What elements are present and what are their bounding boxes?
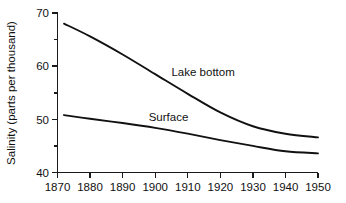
y-axis-title: Salinity (parts per thousand) [5,21,17,165]
y-tick-label-50: 50 [36,114,49,126]
y-axis-minor-ticks [54,40,58,147]
x-tick-label-1880: 1880 [77,181,103,193]
x-tick-label-1890: 1890 [110,181,136,193]
x-tick-label-1920: 1920 [208,181,234,193]
x-tick-label-1930: 1930 [240,181,266,193]
x-axis-ticks [58,173,319,179]
x-tick-label-1910: 1910 [175,181,201,193]
x-tick-label-1870: 1870 [45,181,71,193]
y-tick-label-70: 70 [36,7,49,19]
y-tick-label-60: 60 [36,60,49,72]
x-tick-label-1900: 1900 [142,181,168,193]
series-label-lake-bottom: Lake bottom [171,66,234,78]
series-label-surface: Surface [149,111,189,123]
chart-plot-area: 70 60 50 40 1870 1880 1890 1900 1910 192… [0,0,346,203]
x-tick-label-1950: 1950 [305,181,331,193]
y-tick-label-40: 40 [36,167,49,179]
x-tick-label-1940: 1940 [273,181,299,193]
salinity-line-chart: 70 60 50 40 1870 1880 1890 1900 1910 192… [0,0,346,203]
series-line-surface [64,115,318,153]
